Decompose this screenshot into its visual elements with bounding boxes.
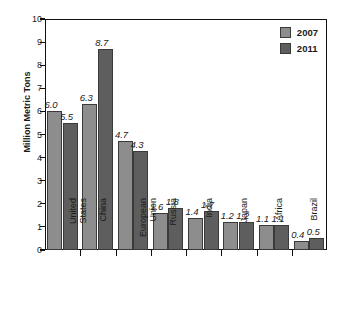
y-axis-tick-label: 3 [0, 175, 42, 187]
category-label-line: Union [148, 198, 158, 258]
bar-2007-european-union [118, 141, 133, 250]
category-label-line: India [204, 198, 214, 258]
category-label-line: European [138, 198, 148, 258]
y-axis-tick-label: 9 [0, 36, 42, 48]
bar-value-label: 8.7 [89, 37, 115, 48]
bar-value-label: 6.3 [73, 92, 99, 103]
category-label-line: Russia [168, 198, 178, 258]
x-axis-category-label: UnitedStates [68, 198, 88, 258]
y-axis-tick-label: 5 [0, 129, 42, 141]
y-axis-tick-label: 2 [0, 198, 42, 210]
x-axis-tick-mark [292, 250, 293, 256]
y-axis-tick-label: 4 [0, 152, 42, 164]
bar-2007-africa [259, 225, 274, 250]
category-label-line: Japan [239, 198, 249, 258]
x-axis-category-label: India [204, 198, 214, 258]
bar-value-label: 5.5 [54, 111, 80, 122]
x-axis-category-label: Africa [274, 198, 284, 258]
category-label-line: Africa [274, 198, 284, 258]
x-axis-category-label: EuropeanUnion [138, 198, 158, 258]
y-axis-tick-label: 6 [0, 105, 42, 117]
bar-2007-brazil [294, 241, 309, 250]
x-axis-category-label: China [98, 198, 108, 258]
chart-container: Million Metric Tons 109876543210 2007201… [0, 0, 340, 316]
bar-2007-japan [223, 222, 238, 250]
x-axis-category-label: Japan [239, 198, 249, 258]
bar-value-label: 4.3 [124, 139, 150, 150]
x-axis-category-label: Russia [168, 198, 178, 258]
x-axis-tick-mark [116, 250, 117, 256]
y-axis-tick-label: 7 [0, 82, 42, 94]
category-label-line: United [68, 198, 78, 258]
x-axis-tick-mark [186, 250, 187, 256]
category-label-line: China [98, 198, 108, 258]
category-label-line: Brazil [309, 198, 319, 258]
y-axis-tick-label: 1 [0, 221, 42, 233]
y-axis-tick-label: 10 [0, 13, 42, 25]
bar-value-label: 6.0 [38, 99, 64, 110]
bar-2007-united-states [47, 111, 62, 250]
category-label-line: States [78, 198, 88, 258]
y-axis-tick-label: 0 [0, 244, 42, 256]
x-axis-tick-mark [257, 250, 258, 256]
x-axis-category-label: Brazil [309, 198, 319, 258]
y-axis-tick-label: 8 [0, 59, 42, 71]
bar-2007-india [188, 218, 203, 250]
x-axis-tick-mark [221, 250, 222, 256]
